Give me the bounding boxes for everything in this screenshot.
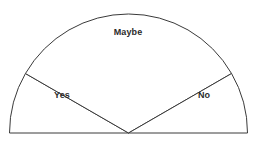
sector-label-maybe: Maybe <box>114 27 143 37</box>
semicircle-diagram: Yes Maybe No <box>0 0 256 142</box>
sector-label-yes: Yes <box>54 90 70 100</box>
sector-label-no: No <box>198 90 211 100</box>
semicircle-chart-svg: Yes Maybe No <box>0 0 256 142</box>
